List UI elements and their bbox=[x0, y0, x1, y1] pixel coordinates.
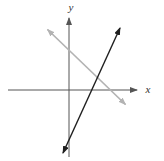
graph-canvas: y x bbox=[0, 0, 164, 161]
coordinate-plane: y x bbox=[0, 0, 164, 161]
x-axis-label: x bbox=[145, 83, 151, 95]
y-axis-label: y bbox=[68, 1, 74, 13]
